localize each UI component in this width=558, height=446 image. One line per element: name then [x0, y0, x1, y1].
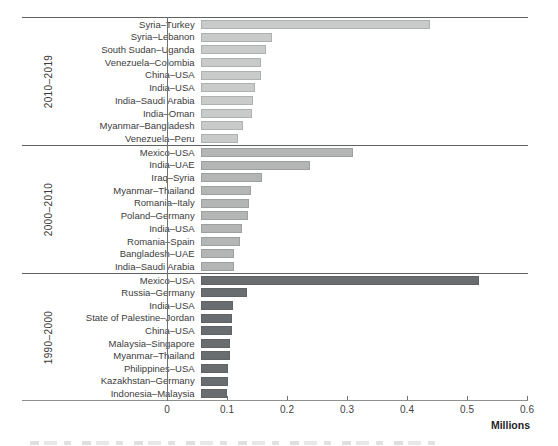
x-axis-tick-label: 0.3 [340, 404, 354, 415]
bar-label: Kazakhstan–Germany [76, 376, 201, 386]
bar [201, 326, 233, 335]
bar-row: India–Saudi Arabia [76, 94, 528, 107]
bar-row: Venezuela–Colombia [76, 56, 528, 69]
bar-track [201, 301, 528, 310]
x-axis-tick-label: 0.6 [520, 404, 534, 415]
bar-row: India–USA [76, 299, 528, 312]
bar [201, 199, 250, 208]
bar-track [201, 134, 528, 143]
bar [201, 96, 253, 105]
bar [201, 249, 235, 258]
bar-rows: Mexico–USAIndia–UAEIraq–SyriaMyanmar–Tha… [76, 146, 528, 273]
bar-row: Russia–Germany [76, 287, 528, 300]
bar [201, 186, 252, 195]
bar-label: Russia–Germany [76, 288, 201, 298]
bar-label: India–USA [76, 224, 201, 234]
bar-track [201, 211, 528, 220]
bar [201, 83, 255, 92]
bar-label: Iraq–Syria [76, 173, 201, 183]
bar-track [201, 161, 528, 170]
bar-track [201, 109, 528, 118]
bar-label: Mexico–USA [76, 276, 201, 286]
bar-track [201, 326, 528, 335]
bar [201, 262, 234, 271]
group-period-label: 2010–2019 [43, 55, 54, 109]
bar [201, 364, 229, 373]
bar-label: Romania–Spain [76, 237, 201, 247]
bar-label: Indonesia–Malaysia [76, 389, 201, 399]
x-axis-title: Millions [491, 419, 530, 431]
bar-track [201, 173, 528, 182]
x-axis-tick-mark [467, 396, 468, 400]
x-axis-tick-mark [527, 396, 528, 400]
bar-label: China–USA [76, 326, 201, 336]
bar [201, 121, 244, 130]
bar [201, 237, 241, 246]
bar-row: Romania–Italy [76, 197, 528, 210]
bar-label: Myanmar–Thailand [76, 351, 201, 361]
bar-label: State of Palestine–Jordan [76, 313, 201, 323]
bar-row: South Sudan–Uganda [76, 43, 528, 56]
bar-row: Malaysia–Singapore [76, 337, 528, 350]
bar-track [201, 339, 528, 348]
bar-rows: Syria–TurkeySyria–LebanonSouth Sudan–Uga… [76, 18, 528, 145]
x-axis-tick-mark [287, 396, 288, 400]
bar-row: India–USA [76, 222, 528, 235]
x-axis-tick-label: 0 [164, 404, 170, 415]
bar-row: Myanmar–Bangladesh [76, 120, 528, 133]
bar-track [201, 288, 528, 297]
bar-label: Myanmar–Bangladesh [76, 121, 201, 131]
bar [201, 377, 228, 386]
x-axis-tick-mark [347, 396, 348, 400]
bar-label: Venezuela–Peru [76, 134, 201, 144]
cropped-caption-fragment [30, 441, 442, 445]
bar [201, 288, 247, 297]
bar-row: Myanmar–Thailand [76, 350, 528, 363]
bar [201, 71, 261, 80]
bar-label: Venezuela–Colombia [76, 58, 201, 68]
bar-row: India–UAE [76, 159, 528, 172]
bar-row: Bangladesh–UAE [76, 248, 528, 261]
bar [201, 389, 227, 398]
bar-label: Romania–Italy [76, 198, 201, 208]
bar-row: Romania–Spain [76, 235, 528, 248]
bar-track [201, 186, 528, 195]
bar-row: China–USA [76, 324, 528, 337]
bar-track [201, 314, 528, 323]
bar-track [201, 276, 528, 285]
x-axis-tick-label: 0.1 [220, 404, 234, 415]
bar [201, 58, 261, 67]
bar-track [201, 351, 528, 360]
bar-label: Bangladesh–UAE [76, 249, 201, 259]
migration-corridors-chart: 2010–2019 Syria–TurkeySyria–LebanonSouth… [0, 0, 558, 446]
x-axis-tick-label: 0.4 [400, 404, 414, 415]
bar-track [201, 249, 528, 258]
bar-row: India–USA [76, 82, 528, 95]
bar [201, 276, 479, 285]
bar [201, 33, 272, 42]
bar-label: India–USA [76, 301, 201, 311]
bar-label: India–Saudi Arabia [76, 262, 201, 272]
bar [201, 351, 230, 360]
bar [201, 134, 238, 143]
bar-row: Indonesia–Malaysia [76, 387, 528, 400]
group-label-column: 2010–2019 [22, 18, 76, 145]
bar-label: India–USA [76, 83, 201, 93]
bar-track [201, 262, 528, 271]
bar-label: Mexico–USA [76, 148, 201, 158]
bar-track [201, 71, 528, 80]
bar-row: Venezuela–Peru [76, 132, 528, 145]
bar-row: Kazakhstan–Germany [76, 375, 528, 388]
x-axis-tick-mark [227, 396, 228, 400]
bar [201, 148, 354, 157]
bar-row: China–USA [76, 69, 528, 82]
bar-row: Iraq–Syria [76, 171, 528, 184]
group-2000-2010: 2000–2010 Mexico–USAIndia–UAEIraq–SyriaM… [22, 145, 528, 273]
bar-track [201, 121, 528, 130]
bar-row: India–Saudi Arabia [76, 260, 528, 273]
group-period-label: 1990–2000 [43, 310, 54, 364]
bar-label: India–UAE [76, 160, 201, 170]
bar-track [201, 389, 528, 398]
bar-track [201, 148, 528, 157]
bar-row: Syria–Turkey [76, 18, 528, 31]
